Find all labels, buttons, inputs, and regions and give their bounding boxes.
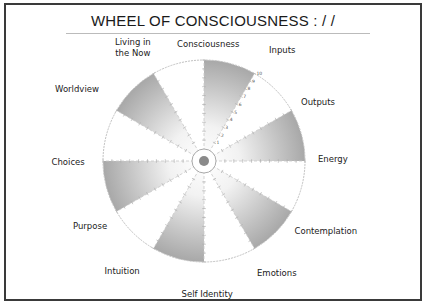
- segment-label: Contemplation: [295, 226, 358, 237]
- scale-number: 2: [221, 133, 224, 138]
- segment-label: Emotions: [257, 268, 297, 279]
- segment-label: Purpose: [73, 221, 107, 232]
- hub-dot: [199, 156, 209, 166]
- segment-label: Consciousness: [177, 39, 239, 50]
- segment-label: Outputs: [301, 97, 335, 108]
- segment-label: Self Identity: [182, 289, 233, 300]
- scale-number: 8: [248, 86, 251, 91]
- scale-number: 3: [225, 125, 228, 130]
- segment-label: Worldview: [55, 84, 99, 95]
- segment-label: Intuition: [105, 266, 140, 277]
- scale-number: 1: [216, 140, 219, 145]
- scale-number: 4: [230, 117, 233, 122]
- scale-number: 10: [257, 71, 263, 76]
- segment-label: Living in the Now: [115, 37, 151, 59]
- shaded-segment: [117, 74, 204, 161]
- segment-label: Energy: [318, 154, 348, 165]
- scale-number: 7: [243, 94, 246, 99]
- scale-number: 5: [234, 110, 237, 115]
- shaded-segment: [204, 161, 291, 248]
- scale-number: 9: [252, 79, 255, 84]
- segment-label: Inputs: [269, 45, 295, 56]
- segment-label: Choices: [52, 157, 85, 168]
- scale-number: 6: [239, 102, 242, 107]
